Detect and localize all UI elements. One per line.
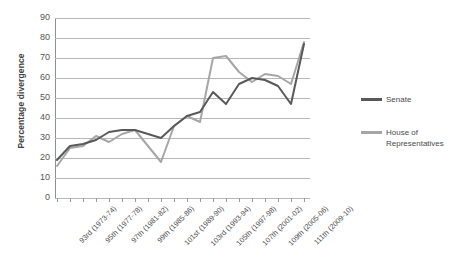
chart-legend: SenateHouse of Representatives — [361, 94, 465, 171]
x-tickmark — [252, 198, 253, 202]
y-tick-label: 70 — [24, 53, 50, 62]
gridline — [55, 198, 310, 199]
series-line-house-of-representatives — [57, 42, 304, 166]
x-tickmark — [83, 198, 84, 202]
x-tickmark — [304, 198, 305, 202]
x-tickmark — [174, 198, 175, 202]
x-tickmark — [122, 198, 123, 202]
x-tickmark — [213, 198, 214, 202]
series-line-senate — [57, 44, 304, 160]
x-tickmark — [135, 198, 136, 202]
x-tickmark — [109, 198, 110, 202]
x-tickmark — [148, 198, 149, 202]
x-tickmark — [161, 198, 162, 202]
line-chart: Percentage divergence 908070605040302010… — [0, 0, 468, 276]
series-lines — [55, 18, 310, 198]
x-tickmark — [265, 198, 266, 202]
y-tick-label: 80 — [24, 33, 50, 42]
x-tickmark — [70, 198, 71, 202]
y-tick-label: 60 — [24, 73, 50, 82]
y-tick-label: 90 — [24, 13, 50, 22]
legend-item[interactable]: House of Representatives — [361, 127, 465, 149]
x-tickmark — [278, 198, 279, 202]
x-tickmark — [226, 198, 227, 202]
y-tick-label: 0 — [24, 193, 50, 202]
plot-area — [55, 18, 310, 198]
x-tickmark — [239, 198, 240, 202]
y-tick-label: 30 — [24, 133, 50, 142]
y-tick-label: 20 — [24, 153, 50, 162]
x-tickmark — [200, 198, 201, 202]
x-tickmark — [291, 198, 292, 202]
legend-label: Senate — [386, 94, 411, 105]
y-tick-label: 40 — [24, 113, 50, 122]
x-tickmark — [57, 198, 58, 202]
y-tick-label: 50 — [24, 93, 50, 102]
legend-swatch-line-icon — [361, 131, 382, 134]
y-tick-label: 10 — [24, 173, 50, 182]
legend-label: House of Representatives — [386, 127, 465, 149]
x-tickmark — [187, 198, 188, 202]
legend-item[interactable]: Senate — [361, 94, 465, 105]
x-tickmark — [96, 198, 97, 202]
legend-swatch-line-icon — [361, 98, 382, 101]
y-axis-tick-labels: 9080706050403020100 — [24, 0, 50, 276]
